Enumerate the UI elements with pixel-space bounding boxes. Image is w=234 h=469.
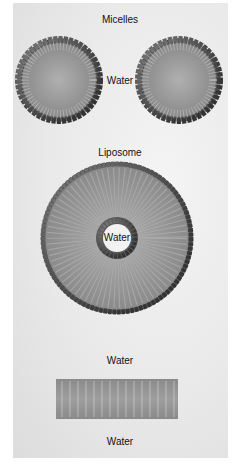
micelle-left bbox=[17, 38, 101, 122]
liposome-water-label: Water bbox=[104, 232, 130, 243]
micelles-title: Micelles bbox=[102, 14, 138, 25]
micelles-water-label: Water bbox=[107, 75, 133, 86]
lipid-bilayer bbox=[56, 375, 178, 423]
liposome-title: Liposome bbox=[98, 147, 141, 158]
bilayer-bottom-water-label: Water bbox=[107, 436, 133, 447]
micelle-right bbox=[137, 38, 221, 122]
bilayer-top-water-label: Water bbox=[107, 355, 133, 366]
